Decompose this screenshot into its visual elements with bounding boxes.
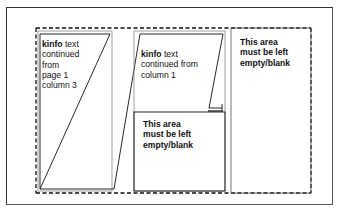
column2-line: text	[162, 49, 178, 59]
column3-blank-area-text: This area must be left empty/blank	[240, 37, 290, 68]
column2-blank-area-text: This area must be left empty/blank	[143, 119, 193, 150]
column1-line: text	[63, 39, 79, 49]
blank-area-line: must be left	[240, 47, 290, 57]
column1-text: kinfo text continued from page 1 column …	[42, 39, 79, 90]
column-flow-connector	[114, 34, 140, 189]
column1-line: page 1	[42, 70, 79, 80]
column2-line: continued from	[141, 59, 198, 69]
column1-line: continued	[42, 49, 79, 59]
column1-keyword: kinfo	[42, 39, 63, 49]
column1-line: from	[42, 60, 79, 70]
column2-text: kinfo text continued from column 1	[141, 49, 198, 80]
column2-line: column 1	[141, 70, 198, 80]
column1-line: column 3	[42, 80, 79, 90]
blank-area-line: empty/blank	[143, 140, 193, 150]
blank-area-line: must be left	[143, 129, 193, 139]
blank-area-line: This area	[143, 119, 193, 129]
blank-area-line: empty/blank	[240, 58, 290, 68]
blank-area-line: This area	[240, 37, 290, 47]
column2-keyword: kinfo	[141, 49, 162, 59]
layout-diagram	[0, 0, 343, 215]
